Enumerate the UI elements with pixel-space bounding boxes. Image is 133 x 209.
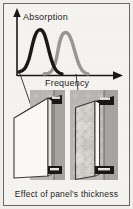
left-panel-bottom-bracket [48,166,62,174]
curve-thin-panel [19,30,62,74]
left-panel-illustration [14,90,65,180]
y-axis-label: Absorption [23,12,68,22]
right-panel-face [95,101,100,176]
left-panel-face [14,98,48,178]
figure-container: Absorption Frequency Effect of panel's t… [0,0,133,209]
figure-artwork [0,0,133,209]
figure-caption: Effect of panel's thickness [0,189,133,199]
right-panel-illustration [70,90,118,180]
right-panel-bottom-bracket [95,166,114,174]
y-axis [13,8,20,76]
x-axis-label: Frequency [45,78,89,88]
